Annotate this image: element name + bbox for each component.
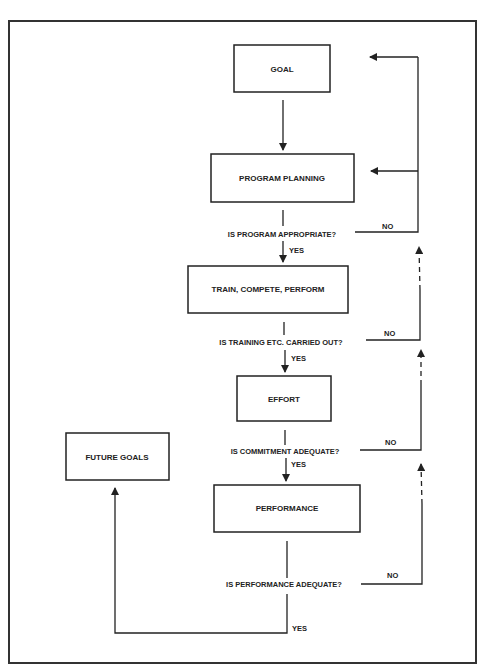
answer-q3-yes: YES: [291, 460, 306, 469]
answer-q1-yes: YES: [289, 246, 304, 255]
answer-q2-no: NO: [384, 329, 395, 338]
question-commitment-adequate: IS COMMITMENT ADEQUATE?: [231, 447, 340, 456]
arrow-q4-dashed: [421, 464, 422, 504]
question-program-appropriate: IS PROGRAM APPROPRIATE?: [228, 230, 337, 239]
question-performance-adequate: IS PERFORMANCE ADEQUATE?: [226, 580, 342, 589]
box-performance-label: PERFORMANCE: [256, 504, 319, 513]
box-goal: GOAL: [234, 45, 330, 92]
answer-q4-no: NO: [387, 571, 398, 580]
answer-q2-yes: YES: [291, 354, 306, 363]
box-future-goals: FUTURE GOALS: [66, 433, 169, 480]
box-goal-label: GOAL: [270, 65, 293, 74]
box-performance: PERFORMANCE: [214, 485, 360, 532]
box-effort-label: EFFORT: [268, 395, 300, 404]
answer-q1-no: NO: [382, 222, 393, 231]
box-program-planning-label: PROGRAM PLANNING: [239, 174, 325, 183]
box-program-planning: PROGRAM PLANNING: [211, 154, 354, 202]
box-train-compete-perform: TRAIN, COMPETE, PERFORM: [188, 266, 348, 313]
box-train-label: TRAIN, COMPETE, PERFORM: [212, 285, 325, 294]
flowchart-diagram: GOAL PROGRAM PLANNING IS PROGRAM APPROPR…: [0, 0, 491, 672]
question-training-carried-out: IS TRAINING ETC. CARRIED OUT?: [219, 338, 343, 347]
arrow-q2-dashed: [419, 247, 420, 290]
answer-q4-yes: YES: [292, 624, 307, 633]
box-future-goals-label: FUTURE GOALS: [85, 453, 149, 462]
box-effort: EFFORT: [237, 376, 331, 421]
loop-q1-no: [355, 57, 418, 232]
answer-q3-no: NO: [385, 438, 396, 447]
